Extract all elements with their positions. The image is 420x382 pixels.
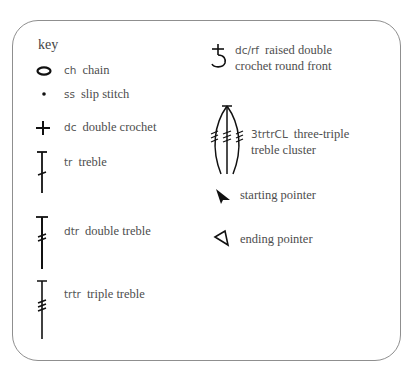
label-line2: treble cluster <box>251 143 316 157</box>
label-line2: crochet round front <box>235 59 332 73</box>
starting-pointer-icon <box>213 186 233 206</box>
label: treble <box>78 155 106 169</box>
label: chain <box>82 63 109 77</box>
legend-item-triple-treble: trtrtriple treble <box>64 287 145 302</box>
legend-item-starting-pointer: starting pointer <box>240 188 316 203</box>
double-treble-icon <box>34 215 50 271</box>
abbr: ss <box>64 88 75 100</box>
label: raised double <box>265 43 332 57</box>
double-crochet-plus-icon <box>34 119 52 137</box>
abbr: ch <box>64 64 76 76</box>
legend-item-three-triple-treble-cluster: 3trtrCLthree-triple treble cluster <box>251 126 349 158</box>
abbr: 3trtrCL <box>251 128 288 140</box>
legend-item-raised-double-crochet: dc/rfraised double crochet round front <box>235 42 332 74</box>
triple-treble-icon <box>34 279 50 341</box>
abbr: tr <box>64 156 72 168</box>
label: ending pointer <box>240 232 313 246</box>
legend-item-double-crochet: dcdouble crochet <box>64 120 156 135</box>
label: three-triple <box>294 127 350 141</box>
label: double crochet <box>82 120 156 134</box>
legend-item-slip-stitch: ssslip stitch <box>64 87 129 102</box>
treble-icon <box>34 150 50 194</box>
raised-double-crochet-icon <box>208 42 228 70</box>
label: double treble <box>85 224 151 238</box>
legend-item-ending-pointer: ending pointer <box>240 232 313 247</box>
label: slip stitch <box>81 87 129 101</box>
label: triple treble <box>87 287 145 301</box>
abbr: dc/rf <box>235 44 259 56</box>
abbr: dtr <box>64 225 79 237</box>
label: starting pointer <box>240 188 316 202</box>
chain-oval-icon <box>35 65 53 77</box>
legend-item-chain: chchain <box>64 63 110 78</box>
ending-pointer-icon <box>212 228 232 248</box>
legend-item-treble: trtreble <box>64 155 107 170</box>
legend-item-double-treble: dtrdouble treble <box>64 224 151 239</box>
slip-stitch-dot-icon <box>40 90 48 98</box>
key-title: key <box>38 37 58 53</box>
three-triple-treble-cluster-icon <box>209 104 245 176</box>
abbr: trtr <box>64 288 81 300</box>
abbr: dc <box>64 121 76 133</box>
